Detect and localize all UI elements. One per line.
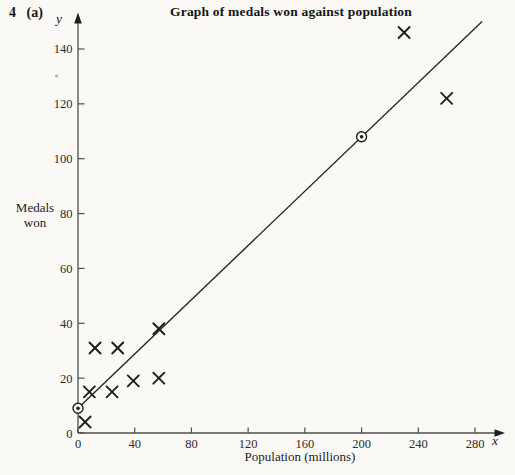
y-tick-label: 100	[54, 152, 73, 166]
y-axis-arrowhead	[74, 13, 82, 24]
x-tick-label: 0	[75, 437, 81, 451]
data-point-cross	[441, 93, 452, 104]
y-tick-label: 0	[66, 427, 72, 441]
circled-line-point-dot	[360, 135, 364, 139]
y-tick-label: 140	[54, 42, 73, 56]
data-point-cross	[84, 386, 95, 397]
x-axis-arrowhead	[495, 429, 506, 437]
data-point-cross	[399, 27, 410, 38]
stray-scan-mark	[55, 74, 58, 77]
data-point-cross	[107, 386, 118, 397]
x-tick-label: 200	[352, 437, 371, 451]
x-tick-label: 280	[466, 437, 485, 451]
best-fit-line	[78, 22, 482, 409]
scatter-plot: 04080120160200240280020406080100120140	[0, 0, 515, 475]
x-tick-label: 160	[295, 437, 314, 451]
y-tick-label: 80	[60, 207, 73, 221]
textbook-scan-page: 4 (a) Graph of medals won against popula…	[0, 0, 515, 475]
y-tick-label: 60	[60, 262, 73, 276]
x-tick-label: 40	[128, 437, 141, 451]
y-tick-label: 40	[60, 317, 73, 331]
data-point-cross	[128, 375, 139, 386]
y-tick-label: 20	[60, 372, 73, 386]
x-tick-label: 120	[239, 437, 258, 451]
circled-line-point-dot	[76, 407, 80, 411]
data-point-cross	[80, 417, 91, 428]
data-point-cross	[90, 342, 101, 353]
x-tick-label: 240	[409, 437, 428, 451]
data-point-cross	[153, 323, 164, 334]
data-point-cross	[112, 342, 123, 353]
data-point-cross	[153, 373, 164, 384]
y-tick-label: 120	[54, 97, 73, 111]
x-tick-label: 80	[185, 437, 198, 451]
